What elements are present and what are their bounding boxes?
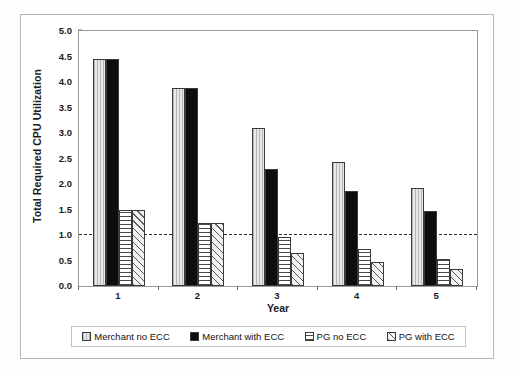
legend-swatch-icon <box>82 332 91 341</box>
y-tick-label: 4.5 <box>38 50 72 61</box>
legend-swatch-icon <box>305 332 314 341</box>
legend-label: PG with ECC <box>399 331 455 342</box>
y-tick-label: 5.0 <box>38 25 72 36</box>
y-tick-label: 0.0 <box>38 280 72 291</box>
legend-item[interactable]: PG no ECC <box>305 331 367 342</box>
x-tick-mark <box>476 286 477 290</box>
bar[interactable] <box>358 249 371 286</box>
bar[interactable] <box>411 188 424 286</box>
x-tick-mark <box>78 286 79 290</box>
bar[interactable] <box>424 211 437 286</box>
legend-item[interactable]: PG with ECC <box>387 331 455 342</box>
bar[interactable] <box>291 253 304 286</box>
bar-group <box>318 31 398 286</box>
bar[interactable] <box>172 88 185 286</box>
y-tick-label: 0.5 <box>38 254 72 265</box>
x-tick-label: 1 <box>98 290 138 301</box>
bar-group <box>159 31 239 286</box>
y-tick-label: 2.0 <box>38 178 72 189</box>
chart-legend: Merchant no ECCMerchant with ECCPG no EC… <box>71 326 466 347</box>
legend-item[interactable]: Merchant no ECC <box>82 331 170 342</box>
plot-area <box>78 30 478 287</box>
legend-swatch-icon <box>387 332 396 341</box>
x-tick-label: 3 <box>257 290 297 301</box>
x-tick-label: 2 <box>177 290 217 301</box>
y-tick-label: 4.0 <box>38 76 72 87</box>
x-tick-mark <box>158 286 159 290</box>
bar[interactable] <box>437 259 450 286</box>
legend-label: PG no ECC <box>317 331 367 342</box>
y-axis-tick-labels: 0.00.51.01.52.02.53.03.54.04.55.0 <box>40 24 78 290</box>
bar[interactable] <box>278 237 291 286</box>
bar[interactable] <box>132 210 145 287</box>
bar-group <box>397 31 477 286</box>
bar[interactable] <box>345 191 358 286</box>
y-tick-label: 3.0 <box>38 127 72 138</box>
bar[interactable] <box>106 59 119 286</box>
legend-item[interactable]: Merchant with ECC <box>190 331 284 342</box>
y-tick-label: 1.5 <box>38 203 72 214</box>
bar[interactable] <box>198 223 211 286</box>
y-tick-label: 3.5 <box>38 101 72 112</box>
bar[interactable] <box>371 262 384 286</box>
bar[interactable] <box>185 88 198 286</box>
bar[interactable] <box>252 128 265 286</box>
x-tick-mark <box>237 286 238 290</box>
y-tick-label: 2.5 <box>38 152 72 163</box>
chart-figure: Total Required CPU Utilization 0.00.51.0… <box>0 0 514 376</box>
x-tick-mark <box>396 286 397 290</box>
bar[interactable] <box>93 59 106 286</box>
bar[interactable] <box>211 223 224 286</box>
legend-swatch-icon <box>190 332 199 341</box>
x-axis-title: Year <box>78 302 478 314</box>
y-tick-label: 1.0 <box>38 229 72 240</box>
x-tick-label: 5 <box>416 290 456 301</box>
bar-group <box>238 31 318 286</box>
bar[interactable] <box>265 169 278 286</box>
bar[interactable] <box>119 210 132 287</box>
legend-label: Merchant with ECC <box>202 331 284 342</box>
x-tick-label: 4 <box>337 290 377 301</box>
bar-group <box>79 31 159 286</box>
bar[interactable] <box>332 162 345 286</box>
x-tick-mark <box>317 286 318 290</box>
bar[interactable] <box>450 269 463 286</box>
legend-label: Merchant no ECC <box>94 331 170 342</box>
